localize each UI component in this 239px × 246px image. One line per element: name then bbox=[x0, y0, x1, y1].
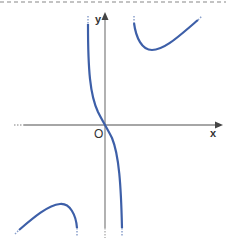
x-axis-arrow-icon bbox=[215, 122, 223, 129]
y-axis-arrow-icon bbox=[102, 12, 109, 20]
upper-right-branch bbox=[134, 16, 202, 50]
lower-left-branch bbox=[15, 204, 77, 237]
x-axis bbox=[14, 122, 223, 129]
origin-label: O bbox=[94, 127, 103, 141]
function-graph: y x O bbox=[0, 0, 239, 246]
x-axis-label: x bbox=[210, 127, 217, 139]
y-axis-label: y bbox=[95, 13, 102, 25]
